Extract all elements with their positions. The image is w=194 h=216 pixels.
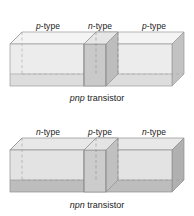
npn-base-slab-front-face	[84, 150, 106, 192]
pnp-block-svg	[0, 30, 194, 92]
npn-block-diagram	[0, 136, 194, 198]
pnp-caption-text: transistor	[85, 93, 125, 103]
pnp-caption-type: pnp	[70, 93, 85, 103]
figure-pnp-transistor: p-type n-type p-type	[0, 0, 194, 108]
npn-caption-type: npn	[70, 200, 85, 210]
pnp-caption: pnp transistor	[0, 93, 194, 103]
pnp-base-slab-front-face	[84, 44, 106, 86]
npn-block-svg	[0, 136, 194, 198]
figure-npn-transistor: n-type p-type n-type	[0, 108, 194, 216]
pnp-block-diagram	[0, 30, 194, 92]
npn-caption-text: transistor	[85, 200, 125, 210]
npn-caption: npn transistor	[0, 200, 194, 210]
